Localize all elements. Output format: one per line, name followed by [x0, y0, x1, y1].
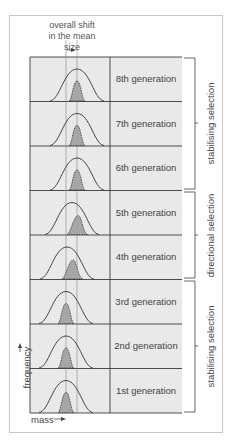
selection-diagram [0, 0, 233, 442]
gen-label-3rd: 3rd generation [110, 296, 182, 307]
brackets [184, 58, 198, 412]
gen-label-7th: 7th generation [110, 118, 182, 129]
gen-label-4th: 4th generation [110, 251, 182, 262]
y-axis-label: frequency [21, 338, 32, 398]
gen-label-5th: 5th generation [110, 207, 182, 218]
bracket-middle [184, 192, 195, 278]
bracket-label-middle: directional selection [205, 186, 216, 286]
x-axis-label: mass [31, 414, 54, 425]
x-arrowhead-icon [61, 417, 66, 421]
bracket-label-bottom: stabilising selection [205, 297, 216, 397]
bracket-label-top: stabilising selection [205, 74, 216, 174]
gen-label-8th: 8th generation [110, 73, 182, 84]
gen-label-6th: 6th generation [110, 162, 182, 173]
gen-label-2nd: 2nd generation [110, 340, 182, 351]
shift-arrowhead-icon [71, 48, 76, 52]
bracket-bottom [184, 281, 195, 412]
gen-label-1st: 1st generation [110, 385, 182, 396]
bracket-top [184, 58, 195, 189]
